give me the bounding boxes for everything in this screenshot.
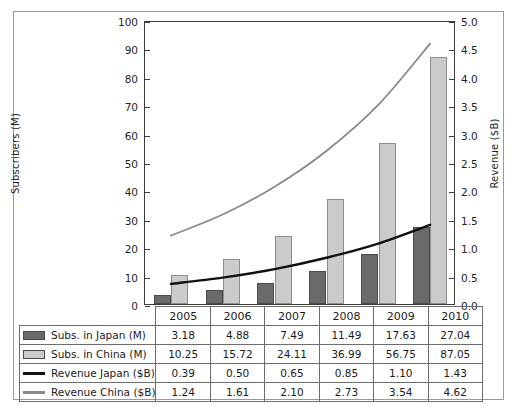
plot-inner: 0102030405060708090100 0.00.51.01.52.02.… bbox=[145, 22, 454, 304]
table-cell: 1.61 bbox=[210, 383, 264, 402]
line-revenue-japan bbox=[171, 225, 430, 284]
lines-layer bbox=[145, 22, 456, 306]
legend-cell: Subs. in China (M) bbox=[20, 345, 156, 364]
table-cell: 0.65 bbox=[265, 364, 319, 383]
table-year-header-2006: 2006 bbox=[210, 307, 264, 326]
data-table: 200520062007200820092010 Subs. in Japan … bbox=[19, 306, 483, 402]
table-cell: 15.72 bbox=[210, 345, 264, 364]
table-cell: 2.10 bbox=[265, 383, 319, 402]
legend-label: Revenue China ($B) bbox=[51, 386, 155, 398]
y-axis-left-tick-label: 80 bbox=[125, 73, 138, 85]
y-axis-right-tick-label: 1.0 bbox=[461, 243, 478, 255]
y-axis-right-tick-label: 4.5 bbox=[461, 44, 478, 56]
y-axis-right-tick-label: 0.5 bbox=[461, 272, 478, 284]
table-cell: 4.62 bbox=[428, 383, 482, 402]
table-cell: 3.54 bbox=[374, 383, 428, 402]
table-row: Subs. in China (M)10.2515.7224.1136.9956… bbox=[20, 345, 483, 364]
table-cell: 0.50 bbox=[210, 364, 264, 383]
y-axis-left-tick-label: 30 bbox=[125, 215, 138, 227]
table-cell: 1.24 bbox=[156, 383, 210, 402]
table-row: Revenue Japan ($B)0.390.500.650.851.101.… bbox=[20, 364, 483, 383]
table-body: Subs. in Japan (M)3.184.887.4911.4917.63… bbox=[20, 326, 483, 402]
y-axis-left-tick-label: 20 bbox=[125, 243, 138, 255]
y-axis-right-tick-label: 2.0 bbox=[461, 186, 478, 198]
legend-label: Subs. in Japan (M) bbox=[51, 329, 146, 341]
table-cell: 17.63 bbox=[374, 326, 428, 345]
table-cell: 4.88 bbox=[210, 326, 264, 345]
legend-swatch-revenue-china-line bbox=[23, 391, 45, 394]
table-year-header-2005: 2005 bbox=[156, 307, 210, 326]
table-cell: 10.25 bbox=[156, 345, 210, 364]
y-axis-right-tick-label: 4.0 bbox=[461, 73, 478, 85]
table-row: Subs. in Japan (M)3.184.887.4911.4917.63… bbox=[20, 326, 483, 345]
table-cell: 3.18 bbox=[156, 326, 210, 345]
y-axis-right-tick-label: 5.0 bbox=[461, 16, 478, 28]
y-axis-left-tick-label: 100 bbox=[118, 16, 138, 28]
legend-label: Revenue Japan ($B) bbox=[51, 367, 155, 379]
y-axis-left-tick-label: 60 bbox=[125, 130, 138, 142]
table-cell: 87.05 bbox=[428, 345, 482, 364]
y-axis-right-tick-label: 3.5 bbox=[461, 101, 478, 113]
legend-swatch-japan-bar bbox=[23, 331, 45, 340]
table-cell: 27.04 bbox=[428, 326, 482, 345]
table-year-header-2009: 2009 bbox=[374, 307, 428, 326]
table-cell: 7.49 bbox=[265, 326, 319, 345]
table-row: Revenue China ($B)1.241.612.102.733.544.… bbox=[20, 383, 483, 402]
table-corner-cell bbox=[20, 307, 156, 326]
line-revenue-china bbox=[171, 44, 430, 236]
legend-cell: Revenue Japan ($B) bbox=[20, 364, 156, 383]
table-cell: 0.39 bbox=[156, 364, 210, 383]
table-header-row: 200520062007200820092010 bbox=[20, 307, 483, 326]
y-axis-left-tick-label: 70 bbox=[125, 101, 138, 113]
y-axis-right-tick-label: 1.5 bbox=[461, 215, 478, 227]
table-cell: 56.75 bbox=[374, 345, 428, 364]
chart-figure: Subscribers (M) Revenue ($B) 01020304050… bbox=[0, 0, 517, 417]
y-axis-right-title: Revenue ($B) bbox=[489, 94, 500, 214]
y-axis-left-tick-label: 50 bbox=[125, 158, 138, 170]
table-cell: 36.99 bbox=[319, 345, 373, 364]
y-axis-left-tick-label: 40 bbox=[125, 186, 138, 198]
y-axis-left-tick-label: 10 bbox=[125, 272, 138, 284]
legend-label: Subs. in China (M) bbox=[51, 348, 147, 360]
legend-swatch-china-bar bbox=[23, 350, 45, 359]
y-axis-left-title: Subscribers (M) bbox=[10, 94, 21, 214]
plot-area: 0102030405060708090100 0.00.51.01.52.02.… bbox=[144, 21, 455, 305]
legend-swatch-revenue-japan-line bbox=[23, 372, 45, 375]
table-cell: 1.43 bbox=[428, 364, 482, 383]
legend-cell: Revenue China ($B) bbox=[20, 383, 156, 402]
y-axis-left-tick-label: 90 bbox=[125, 44, 138, 56]
table-cell: 2.73 bbox=[319, 383, 373, 402]
legend-cell: Subs. in Japan (M) bbox=[20, 326, 156, 345]
table-cell: 1.10 bbox=[374, 364, 428, 383]
table-year-header-2007: 2007 bbox=[265, 307, 319, 326]
table-cell: 0.85 bbox=[319, 364, 373, 383]
table-year-header-2008: 2008 bbox=[319, 307, 373, 326]
table-cell: 24.11 bbox=[265, 345, 319, 364]
y-axis-right-tick-label: 3.0 bbox=[461, 130, 478, 142]
y-axis-right-tick-label: 2.5 bbox=[461, 158, 478, 170]
table-cell: 11.49 bbox=[319, 326, 373, 345]
table-year-header-2010: 2010 bbox=[428, 307, 482, 326]
